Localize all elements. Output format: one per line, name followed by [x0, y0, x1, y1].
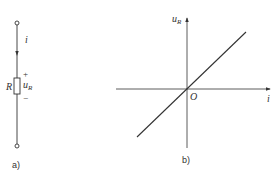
caption-a: a) [12, 160, 20, 170]
x-axis-label: i [267, 94, 270, 104]
resistor-label: R [6, 82, 12, 92]
y-axis-label-sub: R [177, 18, 181, 26]
origin-label: O [190, 92, 197, 102]
plus-sign: + [23, 69, 28, 79]
characteristic-line [137, 32, 246, 137]
voltage-label-sub: R [28, 84, 32, 92]
diagram-canvas [0, 0, 280, 179]
resistor [14, 78, 20, 94]
resistor-circuit [14, 21, 20, 148]
minus-sign: − [23, 93, 28, 103]
current-direction-arrow-icon [15, 51, 18, 56]
ui-characteristic-graph [116, 18, 270, 148]
top-terminal [15, 21, 19, 25]
bottom-terminal [15, 144, 19, 148]
current-label: i [25, 35, 28, 45]
caption-b: b) [182, 155, 190, 165]
voltage-label: uR [23, 80, 32, 93]
y-axis-label: uR [172, 14, 181, 27]
